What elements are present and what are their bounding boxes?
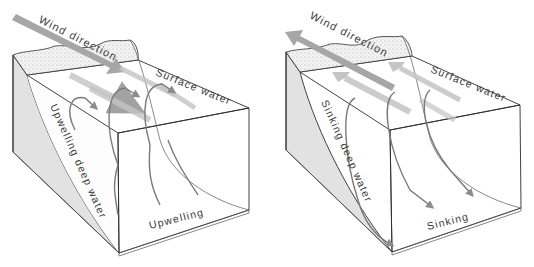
panel-sinking: Wind direction Surface water Sinking dee… (285, 9, 521, 255)
bottom-label: Sinking (426, 210, 470, 232)
upwelling-sinking-diagram: Wind direction Surface water Upwelling d… (0, 0, 534, 267)
right-face (118, 108, 249, 253)
panel-upwelling: Wind direction Surface water Upwelling d… (12, 13, 249, 256)
surface-label: Surface water (429, 63, 508, 104)
right-face (390, 105, 521, 252)
